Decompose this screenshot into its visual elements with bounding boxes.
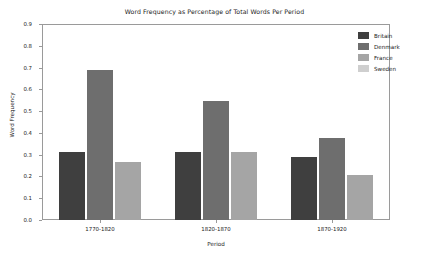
y-tick-label: 0.0	[0, 217, 36, 223]
legend-label: Sweden	[374, 66, 396, 72]
bar	[115, 162, 141, 220]
y-tick-mark	[39, 111, 42, 112]
x-tick-label: 1820-1870	[201, 226, 230, 232]
x-tick-label: 1770-1820	[85, 226, 114, 232]
y-tick-label: 0.2	[0, 173, 36, 179]
y-tick-label: 0.3	[0, 152, 36, 158]
y-tick-label: 0.4	[0, 130, 36, 136]
y-tick-mark	[39, 46, 42, 47]
y-tick-label: 0.9	[0, 21, 36, 27]
bar	[87, 70, 113, 220]
y-tick-mark	[39, 220, 42, 221]
x-tick-mark	[100, 220, 101, 223]
legend-item[interactable]: Britain	[358, 30, 420, 41]
x-tick-mark	[332, 220, 333, 223]
x-axis-label: Period	[42, 241, 390, 247]
bar	[291, 157, 317, 220]
y-tick-mark	[39, 68, 42, 69]
legend-swatch	[358, 65, 369, 72]
legend-swatch	[358, 54, 369, 61]
bar	[319, 138, 345, 220]
chart-title: Word Frequency as Percentage of Total Wo…	[0, 8, 429, 15]
legend-label: France	[374, 55, 393, 61]
y-tick-mark	[39, 176, 42, 177]
legend-item[interactable]: France	[358, 52, 420, 63]
y-tick-label: 0.7	[0, 65, 36, 71]
legend-swatch	[358, 32, 369, 39]
y-tick-mark	[39, 89, 42, 90]
x-tick-label: 1870-1920	[317, 226, 346, 232]
legend-swatch	[358, 43, 369, 50]
bar	[175, 152, 201, 220]
y-tick-mark	[39, 198, 42, 199]
legend: BritainDenmarkFranceSweden	[358, 30, 420, 74]
bar	[203, 101, 229, 220]
y-tick-label: 0.8	[0, 43, 36, 49]
legend-label: Denmark	[374, 44, 400, 50]
y-tick-label: 0.5	[0, 108, 36, 114]
y-axis-label: Word Frequency	[6, 24, 16, 220]
y-tick-mark	[39, 24, 42, 25]
y-tick-label: 0.1	[0, 195, 36, 201]
legend-item[interactable]: Sweden	[358, 63, 420, 74]
bar-chart: Word Frequency as Percentage of Total Wo…	[0, 0, 429, 265]
bar	[231, 152, 257, 220]
legend-item[interactable]: Denmark	[358, 41, 420, 52]
y-tick-mark	[39, 155, 42, 156]
y-tick-label: 0.6	[0, 86, 36, 92]
y-tick-mark	[39, 133, 42, 134]
x-tick-mark	[216, 220, 217, 223]
legend-label: Britain	[374, 33, 392, 39]
bar	[59, 152, 85, 220]
bar	[347, 175, 373, 220]
